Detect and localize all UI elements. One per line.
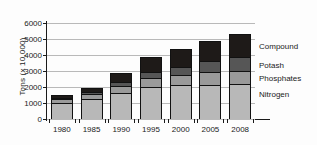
gridline — [47, 23, 255, 24]
x-axis-tick-label-2005: 2005 — [202, 125, 220, 134]
y-axis-tick-label: 5000 — [24, 35, 42, 44]
bar-1980[interactable] — [51, 95, 73, 119]
bar-segment-compound — [229, 34, 251, 58]
bar-segment-potash — [199, 62, 221, 73]
plot-area: 0100020003000400050006000 19801985199019… — [47, 23, 255, 119]
bar-1985[interactable] — [81, 88, 103, 119]
y-axis-tick — [43, 71, 47, 72]
gridline — [47, 39, 255, 40]
bar-segment-phosphates — [229, 72, 251, 85]
bar-segment-potash — [229, 58, 251, 72]
bar-segment-nitrogen — [140, 88, 162, 119]
bar-2005[interactable] — [199, 41, 221, 119]
x-axis-tick — [75, 119, 76, 123]
bar-segment-compound — [110, 73, 132, 82]
bar-segment-compound — [199, 41, 221, 62]
bar-2008[interactable] — [229, 34, 251, 119]
y-axis-tick — [43, 119, 47, 120]
x-axis-tick-label-2008: 2008 — [231, 125, 249, 134]
bar-segment-potash — [170, 68, 192, 76]
x-axis-tick — [108, 119, 109, 123]
bar-segment-phosphates — [140, 79, 162, 88]
x-axis-tick-label-2000: 2000 — [172, 125, 190, 134]
x-axis-tick — [194, 119, 195, 123]
bar-1995[interactable] — [140, 57, 162, 119]
legend-item-nitrogen: Nitrogen — [259, 90, 289, 99]
y-axis-tick — [43, 87, 47, 88]
y-axis-tick-label: 3000 — [24, 67, 42, 76]
legend-item-compound: Compound — [259, 42, 298, 51]
y-axis-tick-label: 2000 — [24, 83, 42, 92]
x-axis-tick-label-1985: 1985 — [83, 125, 101, 134]
y-axis-tick-label: 0 — [38, 115, 42, 124]
x-axis-tick-label-1995: 1995 — [142, 125, 160, 134]
x-axis-tick-label-1980: 1980 — [53, 125, 71, 134]
x-axis-tick — [79, 119, 80, 123]
bar-segment-phosphates — [170, 76, 192, 86]
bar-segment-nitrogen — [51, 104, 73, 119]
x-axis-tick — [134, 119, 135, 123]
bar-segment-phosphates — [199, 73, 221, 85]
bar-segment-compound — [140, 57, 162, 73]
x-axis-tick-label-1990: 1990 — [112, 125, 130, 134]
y-axis-tick-label: 1000 — [24, 99, 42, 108]
legend-item-potash: Potash — [259, 61, 284, 70]
y-axis-tick — [43, 103, 47, 104]
bar-segment-nitrogen — [199, 86, 221, 119]
x-axis-tick — [223, 119, 224, 123]
y-axis-tick — [43, 55, 47, 56]
x-axis-tick — [197, 119, 198, 123]
legend-item-phosphates: Phosphates — [259, 74, 301, 83]
bar-segment-phosphates — [110, 87, 132, 94]
x-axis-tick — [164, 119, 165, 123]
bar-segment-nitrogen — [81, 100, 103, 119]
stacked-bar-chart: Tons (x 10,000) 010002000300040005000600… — [0, 0, 317, 145]
x-axis-tick — [49, 119, 50, 123]
y-axis-tick — [43, 39, 47, 40]
x-axis-tick — [105, 119, 106, 123]
bar-segment-nitrogen — [110, 94, 132, 119]
y-axis-tick-label: 4000 — [24, 51, 42, 60]
bar-segment-nitrogen — [229, 85, 251, 119]
bar-segment-nitrogen — [170, 86, 192, 119]
bar-2000[interactable] — [170, 49, 192, 119]
x-axis-tick — [253, 119, 254, 123]
x-axis-tick — [168, 119, 169, 123]
bar-1990[interactable] — [110, 73, 132, 119]
x-axis-tick — [227, 119, 228, 123]
bar-segment-compound — [170, 49, 192, 68]
x-axis-tick — [138, 119, 139, 123]
y-axis-tick — [43, 23, 47, 24]
y-axis-tick-label: 6000 — [24, 19, 42, 28]
